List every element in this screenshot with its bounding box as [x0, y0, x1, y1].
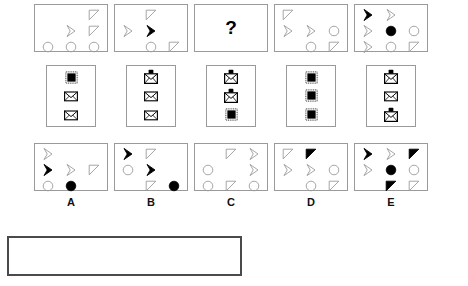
- empty-cell: [60, 146, 83, 162]
- icon-panel-4[interactable]: [286, 65, 336, 127]
- circle-outline-icon: [322, 162, 345, 178]
- filled-square-icon: [289, 87, 333, 106]
- option-labels: ABCDE: [34, 196, 428, 208]
- chevron-filled-icon: [357, 7, 380, 23]
- panel-grid: [115, 144, 187, 190]
- answer-entry-box[interactable]: [7, 236, 242, 276]
- locked-envelope-icon: [129, 68, 173, 87]
- option-panel-b[interactable]: [114, 143, 188, 191]
- triangle-outline-icon: [322, 39, 345, 55]
- triangle-outline-icon: [277, 146, 300, 162]
- options-row: [34, 143, 428, 191]
- option-label-e[interactable]: E: [354, 196, 428, 208]
- triangle-filled-icon: [380, 178, 403, 194]
- empty-cell: [37, 7, 60, 23]
- option-panel-c[interactable]: [194, 143, 268, 191]
- locked-envelope-icon: [369, 105, 413, 124]
- triangle-outline-icon: [322, 178, 345, 194]
- icon-panel-3[interactable]: [206, 65, 256, 127]
- panel-grid: [207, 66, 255, 126]
- option-label-a[interactable]: A: [34, 196, 108, 208]
- envelope-icon: [129, 87, 173, 106]
- question-mark: ?: [195, 5, 267, 51]
- circle-outline-icon: [402, 162, 425, 178]
- empty-cell: [220, 162, 243, 178]
- triangle-outline-icon: [277, 7, 300, 23]
- empty-cell: [277, 39, 300, 55]
- empty-cell: [37, 23, 60, 39]
- circle-outline-icon: [60, 39, 83, 55]
- circle-outline-icon: [300, 39, 323, 55]
- empty-cell: [117, 39, 140, 55]
- envelope-icon: [49, 105, 93, 124]
- chevron-outline-icon: [60, 162, 83, 178]
- sequence-panel-2[interactable]: [114, 4, 188, 52]
- chevron-outline-icon: [357, 23, 380, 39]
- chevron-outline-icon: [60, 23, 83, 39]
- triangle-outline-icon: [82, 23, 105, 39]
- chevron-outline-icon: [300, 23, 323, 39]
- envelope-icon: [49, 87, 93, 106]
- empty-cell: [117, 178, 140, 194]
- chevron-filled-icon: [37, 162, 60, 178]
- circle-outline-icon: [37, 39, 60, 55]
- icon-panel-2[interactable]: [126, 65, 176, 127]
- circle-outline-icon: [380, 39, 403, 55]
- circle-outline-icon: [197, 162, 220, 178]
- triangle-outline-icon: [402, 39, 425, 55]
- filled-square-icon: [289, 105, 333, 124]
- triangle-outline-icon: [402, 178, 425, 194]
- chevron-outline-icon: [242, 162, 265, 178]
- sequence-panel-5[interactable]: [354, 4, 428, 52]
- envelope-icon: [369, 87, 413, 106]
- empty-cell: [322, 7, 345, 23]
- triangle-outline-icon: [82, 162, 105, 178]
- panel-grid: [35, 144, 107, 190]
- circle-outline-icon: [402, 23, 425, 39]
- filled-square-icon: [209, 105, 253, 124]
- triangle-outline-icon: [220, 178, 243, 194]
- panel-grid: [275, 5, 347, 51]
- circle-filled-icon: [380, 23, 403, 39]
- sequence-panel-4[interactable]: [274, 4, 348, 52]
- option-label-c[interactable]: C: [194, 196, 268, 208]
- circle-outline-icon: [300, 178, 323, 194]
- sequence-panel-3-question[interactable]: ?: [194, 4, 268, 52]
- circle-outline-icon: [82, 39, 105, 55]
- empty-cell: [357, 178, 380, 194]
- panel-grid: [195, 144, 267, 190]
- option-label-b[interactable]: B: [114, 196, 188, 208]
- icon-panel-1[interactable]: [46, 65, 96, 127]
- locked-envelope-icon: [369, 68, 413, 87]
- panel-grid: [355, 5, 427, 51]
- triangle-outline-icon: [162, 39, 185, 55]
- empty-cell: [60, 7, 83, 23]
- sequence-row: ?: [34, 4, 428, 52]
- panel-grid: [127, 66, 175, 126]
- panel-grid: [47, 66, 95, 126]
- empty-cell: [162, 162, 185, 178]
- triangle-outline-icon: [140, 146, 163, 162]
- circle-outline-icon: [117, 162, 140, 178]
- empty-cell: [117, 7, 140, 23]
- chevron-outline-icon: [117, 23, 140, 39]
- empty-cell: [402, 7, 425, 23]
- chevron-filled-icon: [357, 146, 380, 162]
- chevron-outline-icon: [37, 146, 60, 162]
- option-label-d[interactable]: D: [274, 196, 348, 208]
- triangle-outline-icon: [82, 7, 105, 23]
- circle-outline-icon: [140, 39, 163, 55]
- icon-row: [46, 65, 416, 127]
- option-panel-e[interactable]: [354, 143, 428, 191]
- locked-envelope-icon: [209, 87, 253, 106]
- option-panel-d[interactable]: [274, 143, 348, 191]
- empty-cell: [162, 23, 185, 39]
- icon-panel-5[interactable]: [366, 65, 416, 127]
- circle-outline-icon: [197, 178, 220, 194]
- empty-cell: [162, 7, 185, 23]
- option-panel-a[interactable]: [34, 143, 108, 191]
- chevron-outline-icon: [300, 162, 323, 178]
- sequence-panel-1[interactable]: [34, 4, 108, 52]
- circle-outline-icon: [322, 23, 345, 39]
- empty-cell: [300, 7, 323, 23]
